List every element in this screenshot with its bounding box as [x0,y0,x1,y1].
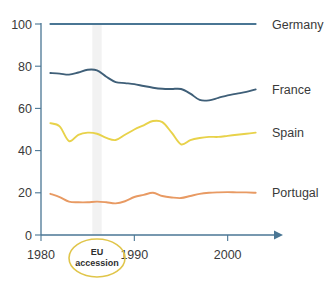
x-axis-ticks [41,235,228,241]
series-label-portugal: Portugal [272,186,319,200]
y-tick-label: 20 [18,186,32,200]
chart-container: 020406080100 198019902000 GermanyFranceS… [0,0,333,294]
y-axis-tick-labels: 020406080100 [11,18,32,243]
y-tick-label: 0 [25,229,32,243]
series-labels: GermanyFranceSpainPortugal [272,18,324,201]
x-tick-label: 1980 [27,248,55,262]
x-axis-arrow-icon [274,231,283,240]
highlight-band-group [92,24,101,235]
x-axis: 198019902000 [27,231,283,263]
series-label-spain: Spain [272,126,304,140]
eu-accession-annotation: EU accession [69,239,125,277]
eu-accession-label-line1: EU [91,247,104,257]
series-line-france [50,70,255,101]
series-label-germany: Germany [272,18,324,32]
y-tick-label: 60 [18,102,32,116]
y-tick-label: 80 [18,60,32,74]
y-tick-label: 100 [11,18,32,32]
eu-accession-label-line2: accession [75,258,119,268]
y-axis: 020406080100 [11,18,41,243]
eu-accession-highlight-band [92,24,101,235]
y-axis-ticks [35,24,41,235]
x-axis-tick-labels: 198019902000 [27,248,242,262]
series-lines [50,24,255,203]
x-tick-label: 2000 [214,248,242,262]
series-line-portugal [50,192,255,203]
series-label-france: France [272,83,311,97]
series-line-spain [50,121,255,145]
y-tick-label: 40 [18,144,32,158]
line-chart: 020406080100 198019902000 GermanyFranceS… [0,0,333,294]
